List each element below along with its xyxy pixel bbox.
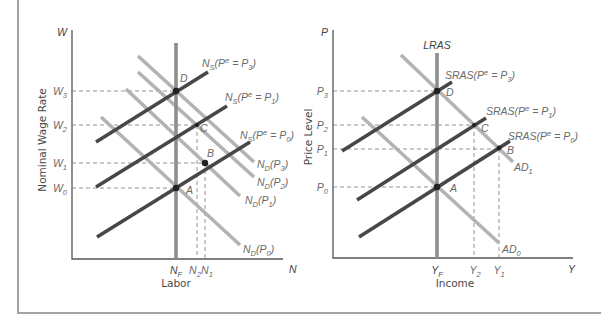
- y-axis-title: Nominal Wage Rate: [36, 88, 48, 191]
- point-b-marker: [202, 160, 208, 166]
- point-d-marker: [434, 88, 440, 94]
- ad1-label: AD1: [513, 161, 533, 176]
- goods-market-panel: P P3 P2 P1 P0 Price Level YF Y2 Y1 Y Inc…: [302, 26, 578, 289]
- y-axis-symbol: W: [57, 26, 68, 38]
- point-a-marker: [173, 185, 179, 191]
- point-d-label: D: [180, 72, 188, 84]
- sras-label-p3: SRAS(Pe = P3): [445, 68, 515, 84]
- goods-market-axes: [333, 30, 573, 258]
- tick-w3: W3: [53, 85, 68, 100]
- labor-supply-label-p1: NS(Pe = P1): [225, 90, 279, 106]
- point-b-label: B: [207, 147, 214, 159]
- point-b-marker: [497, 146, 502, 151]
- point-c-marker: [472, 123, 476, 127]
- tick-p1: P1: [317, 143, 328, 158]
- sras-label-p0: SRAS(Pe = P0): [508, 129, 578, 145]
- point-c-label: C: [200, 122, 208, 134]
- point-a-label: A: [449, 182, 457, 194]
- point-c-label: C: [481, 122, 489, 134]
- labor-and-goods-market-figure: W W3 W2 W1 W0 Nominal Wage Rate NF N2 N1…: [0, 0, 601, 318]
- labor-demand-label-p2: ND(P2): [257, 176, 288, 191]
- y-axis-symbol: P: [321, 26, 328, 38]
- tick-p0: P0: [317, 181, 329, 196]
- point-a-marker: [434, 184, 440, 190]
- tick-w1: W1: [53, 157, 67, 172]
- x-axis-symbol: N: [289, 263, 297, 275]
- x-axis-title: Labor: [161, 277, 191, 289]
- labor-demand-curve-p0: [101, 117, 240, 245]
- lras-label: LRAS: [423, 39, 450, 51]
- sras-curve-p0: [359, 141, 510, 237]
- tick-p2: P2: [317, 119, 329, 134]
- sras-label-p1: SRAS(Pe = P1): [486, 104, 556, 120]
- tick-w0: W0: [53, 182, 68, 197]
- y-axis-title: Price Level: [302, 109, 314, 166]
- tick-y1: Y1: [493, 264, 504, 279]
- ad0-label: AD0: [501, 243, 522, 258]
- labor-supply-label-p3: NS(Pe = P3): [202, 56, 256, 72]
- point-d-label: D: [446, 86, 454, 98]
- tick-p3: P3: [317, 85, 329, 100]
- labor-demand-label-p1: ND(P1): [245, 194, 276, 209]
- labor-demand-curve-p1: [126, 89, 240, 196]
- labor-demand-curve-p3: [138, 56, 254, 162]
- labor-supply-label-p0: NS(Pe = P0): [240, 128, 294, 144]
- point-c-marker: [195, 123, 199, 127]
- tick-n2: N2: [189, 264, 202, 279]
- point-a-label: A: [185, 184, 193, 196]
- labor-market-panel: W W3 W2 W1 W0 Nominal Wage Rate NF N2 N1…: [36, 26, 297, 289]
- x-axis-title: Income: [436, 277, 475, 289]
- labor-demand-label-p0: ND(P0): [243, 243, 274, 258]
- x-axis-symbol: Y: [568, 263, 576, 275]
- tick-n1: N1: [201, 264, 213, 279]
- tick-w2: W2: [53, 119, 68, 134]
- labor-demand-label-p3: ND(P3): [257, 158, 288, 173]
- point-b-label: B: [507, 144, 514, 156]
- point-d-marker: [173, 88, 179, 94]
